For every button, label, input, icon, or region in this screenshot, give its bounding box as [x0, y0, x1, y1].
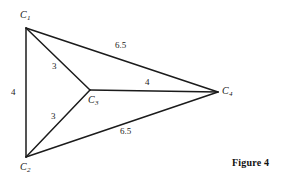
edge-weight-c3-c4: 4: [145, 78, 150, 87]
node-letter: C: [20, 161, 27, 172]
node-label-c4: C4: [222, 86, 232, 96]
edge-weight-c1-c4: 6.5: [115, 41, 126, 50]
node-index: 2: [27, 166, 31, 174]
edge-c1-c4: [26, 28, 218, 92]
edge-weight-c1-c3: 3: [52, 62, 57, 71]
node-letter: C: [88, 94, 95, 105]
node-letter: C: [20, 9, 27, 20]
node-letter: C: [222, 85, 229, 96]
node-index: 1: [27, 14, 31, 22]
node-label-c1: C1: [20, 10, 30, 20]
edge-weight-c2-c4: 6.5: [120, 127, 131, 136]
figure-caption: Figure 4: [232, 158, 269, 168]
node-label-c2: C2: [20, 162, 30, 172]
node-label-c3: C3: [88, 95, 98, 105]
node-index: 4: [229, 90, 233, 98]
edge-weight-c2-c3: 3: [51, 112, 56, 121]
edge-weight-c1-c2: 4: [11, 88, 16, 97]
edge-c2-c4: [26, 92, 218, 157]
edge-c1-c3: [26, 28, 90, 90]
node-index: 3: [95, 99, 99, 107]
figure-container: 436.536.54C1C2C3C4 Figure 4: [0, 0, 283, 184]
edge-c3-c4: [90, 90, 218, 92]
